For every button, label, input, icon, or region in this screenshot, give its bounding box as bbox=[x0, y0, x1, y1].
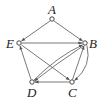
directed-graph: A B C D E bbox=[0, 0, 107, 103]
edge-c-b bbox=[73, 46, 85, 80]
label-b: B bbox=[89, 36, 97, 51]
edge-e-c bbox=[22, 45, 70, 80]
node-a bbox=[50, 17, 54, 21]
edge-a-b bbox=[54, 21, 83, 41]
edges bbox=[20, 21, 88, 82]
edge-a-e bbox=[22, 21, 51, 41]
node-d bbox=[30, 80, 34, 84]
node-b bbox=[83, 41, 87, 45]
edge-b-d bbox=[35, 46, 84, 81]
edge-d-b bbox=[34, 45, 83, 80]
label-a: A bbox=[47, 2, 56, 17]
node-e bbox=[17, 41, 21, 45]
node-c bbox=[70, 80, 74, 84]
label-e: E bbox=[5, 36, 14, 51]
label-d: D bbox=[26, 85, 37, 100]
label-c: C bbox=[68, 85, 77, 100]
labels: A B C D E bbox=[5, 2, 97, 100]
